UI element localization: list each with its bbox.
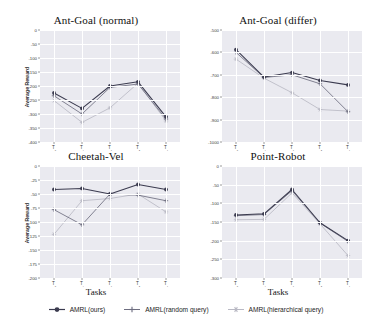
y-axis-tick-mark <box>38 278 40 279</box>
x-gridline <box>82 30 83 142</box>
y-axis-tick-label: -250 <box>210 257 219 262</box>
y-axis-tick-label: -50 <box>31 42 37 47</box>
y-axis-tick-label: -50 <box>213 182 219 187</box>
x-axis-tick-mark <box>292 142 293 144</box>
y-axis-tick-mark <box>220 259 222 260</box>
x-axis-tick-mark <box>264 142 265 144</box>
y-axis-tick-mark <box>220 74 222 75</box>
x-axis-tick-mark <box>166 142 167 144</box>
plot-area: 0-50-100-150-200-250-300-350-400T₀T₁T₂T₃… <box>40 30 180 142</box>
subplot-point-robot: Point-Robot 0-50-100-150-200-250-300T₀T₁… <box>188 150 368 296</box>
x-gridline <box>166 166 167 278</box>
y-axis-tick-mark <box>220 119 222 120</box>
legend-item[interactable]: AMRL(ours) <box>48 305 106 314</box>
y-axis-tick-label: -200 <box>28 84 37 89</box>
y-axis-tick-label: 0 <box>35 164 37 169</box>
plot-area: 0-50-100-150-200-250-300T₀T₁T₂T₃T₄ <box>222 166 362 278</box>
y-axis-tick-mark <box>220 222 222 223</box>
y-axis-tick-label: -150 <box>210 220 219 225</box>
y-axis-tick-mark <box>38 236 40 237</box>
subplot-grid: Ant-Goal (normal) Average Reward 0-50-10… <box>0 0 371 296</box>
x-axis-tick-mark <box>320 278 321 280</box>
y-axis-tick-mark <box>220 184 222 185</box>
y-axis-tick-label: -500 <box>210 28 219 33</box>
y-axis-tick-label: -150 <box>28 70 37 75</box>
x-gridline <box>264 30 265 142</box>
y-axis-tick-label: -800 <box>210 95 219 100</box>
subplot-ant-goal-differ: Ant-Goal (differ) -500-600-700-800-900-1… <box>188 14 368 160</box>
subplot-ant-goal-normal: Ant-Goal (normal) Average Reward 0-50-10… <box>6 14 186 160</box>
plot-area: 0-25-50-75-100-125-150-175-200T₀T₁T₂T₃T₄ <box>40 166 180 278</box>
y-axis-tick-mark <box>38 100 40 101</box>
y-axis-tick-label: -700 <box>210 72 219 77</box>
x-axis-tick-mark <box>110 142 111 144</box>
legend-label: AMRL(hierarchical query) <box>249 306 324 313</box>
x-gridline <box>292 30 293 142</box>
subplot-title: Ant-Goal (normal) <box>6 14 186 26</box>
data-point-marker <box>129 306 135 312</box>
chart-legend: AMRL(ours)AMRL(random query)AMRL(hierarc… <box>0 298 371 320</box>
x-gridline <box>54 30 55 142</box>
y-axis-tick-label: -50 <box>31 192 37 197</box>
y-axis-tick-label: -300 <box>210 276 219 281</box>
legend-marker-star-icon <box>227 305 245 314</box>
y-axis-tick-label: -400 <box>28 140 37 145</box>
y-axis-tick-mark <box>38 86 40 87</box>
legend-item[interactable]: AMRL(hierarchical query) <box>227 305 324 314</box>
y-axis-tick-mark <box>38 208 40 209</box>
y-axis-tick-mark <box>38 142 40 143</box>
x-gridline <box>236 30 237 142</box>
x-gridline <box>110 166 111 278</box>
y-axis-tick-label: 0 <box>35 28 37 33</box>
x-gridline <box>292 166 293 278</box>
y-axis-tick-mark <box>38 194 40 195</box>
y-axis-tick-mark <box>220 142 222 143</box>
y-axis-tick-mark <box>38 114 40 115</box>
data-point-marker <box>233 307 239 312</box>
x-axis-tick-mark <box>54 142 55 144</box>
y-axis-tick-label: -600 <box>210 50 219 55</box>
y-axis-tick-label: -100 <box>28 220 37 225</box>
subplot-cheetah-vel: Cheetah-Vel Average Reward 0-25-50-75-10… <box>6 150 186 296</box>
y-axis-tick-label: -250 <box>28 98 37 103</box>
legend-label: AMRL(random query) <box>145 306 208 313</box>
x-axis-label: Tasks <box>188 287 368 297</box>
y-axis-tick-mark <box>38 264 40 265</box>
x-axis-tick-mark <box>110 278 111 280</box>
x-axis-tick-mark <box>82 142 83 144</box>
plot-area: -500-600-700-800-900-1000T₀T₁T₂T₃T₄ <box>222 30 362 142</box>
x-axis-tick-mark <box>82 278 83 280</box>
y-axis-tick-label: -25 <box>31 178 37 183</box>
y-axis-tick-mark <box>38 44 40 45</box>
y-axis-tick-label: 0 <box>217 164 219 169</box>
y-axis-tick-mark <box>220 52 222 53</box>
x-gridline <box>82 166 83 278</box>
legend-item[interactable]: AMRL(random query) <box>123 305 208 314</box>
y-axis-tick-label: -125 <box>28 234 37 239</box>
subplot-title: Cheetah-Vel <box>6 150 186 162</box>
x-gridline <box>110 30 111 142</box>
y-axis-tick-label: -100 <box>210 201 219 206</box>
x-gridline <box>54 166 55 278</box>
x-gridline <box>348 30 349 142</box>
y-axis-tick-label: -150 <box>28 248 37 253</box>
data-point-marker <box>54 307 59 312</box>
y-axis-tick-mark <box>220 166 222 167</box>
x-axis-tick-mark <box>348 278 349 280</box>
x-axis-tick-mark <box>320 142 321 144</box>
figure-canvas: Ant-Goal (normal) Average Reward 0-50-10… <box>0 0 371 328</box>
y-axis-tick-mark <box>220 278 222 279</box>
x-gridline <box>320 166 321 278</box>
y-axis-tick-mark <box>38 72 40 73</box>
y-axis-tick-label: -200 <box>28 276 37 281</box>
x-axis-tick-mark <box>166 278 167 280</box>
y-axis-tick-mark <box>220 203 222 204</box>
y-axis-tick-mark <box>220 240 222 241</box>
y-axis-tick-mark <box>38 250 40 251</box>
y-axis-tick-mark <box>220 30 222 31</box>
y-axis-tick-label: -1000 <box>208 140 219 145</box>
y-axis-tick-label: -100 <box>28 56 37 61</box>
x-gridline <box>236 166 237 278</box>
x-gridline <box>348 166 349 278</box>
x-axis-tick-mark <box>138 142 139 144</box>
